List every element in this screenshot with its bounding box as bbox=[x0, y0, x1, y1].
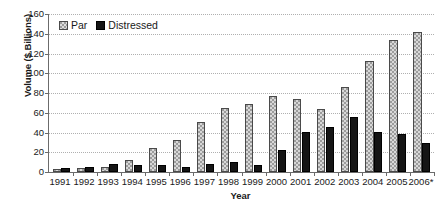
x-tick-label: 1993 bbox=[98, 176, 119, 187]
bar-distressed bbox=[109, 164, 117, 172]
bar-distressed bbox=[61, 168, 69, 172]
bar-group bbox=[242, 14, 266, 172]
bar-distressed bbox=[206, 164, 214, 172]
y-tick-label: 160 bbox=[28, 9, 44, 19]
bar-group bbox=[145, 14, 169, 172]
bar-par bbox=[365, 61, 373, 172]
bar-distressed bbox=[398, 134, 406, 173]
bar-group bbox=[217, 14, 241, 172]
x-tick-label: 1994 bbox=[122, 176, 143, 187]
bar-distressed bbox=[134, 165, 142, 172]
bar-distressed bbox=[374, 132, 382, 172]
y-tick-label: 20 bbox=[33, 148, 44, 158]
y-tick-label: 80 bbox=[33, 88, 44, 98]
y-tick-label: 140 bbox=[28, 29, 44, 39]
legend-item-distressed: Distressed bbox=[96, 20, 158, 31]
y-tick-label: 0 bbox=[39, 167, 44, 177]
y-tick-label: 60 bbox=[33, 108, 44, 118]
bar-group bbox=[362, 14, 386, 172]
bar-group bbox=[97, 14, 121, 172]
y-tick-label: 120 bbox=[28, 49, 44, 59]
legend-label-par: Par bbox=[71, 20, 87, 31]
x-tick-label: 1991 bbox=[49, 176, 70, 187]
bar-par bbox=[341, 87, 349, 172]
x-tick-label: 2000 bbox=[266, 176, 287, 187]
x-tick-label: 2004 bbox=[362, 176, 383, 187]
bar-distressed bbox=[326, 127, 334, 172]
bar-par bbox=[53, 169, 61, 172]
legend-item-par: Par bbox=[59, 20, 87, 31]
bar-group bbox=[49, 14, 73, 172]
bar-par bbox=[413, 32, 421, 172]
bar-group bbox=[338, 14, 362, 172]
bar-group bbox=[410, 14, 434, 172]
x-axis-title: Year bbox=[48, 190, 433, 201]
bar-group bbox=[314, 14, 338, 172]
y-axis-tick-labels: 020406080100120140160 bbox=[18, 14, 44, 172]
bar-par bbox=[389, 40, 397, 172]
bar-par bbox=[293, 99, 301, 172]
bar-par bbox=[317, 109, 325, 172]
x-tick-label: 2002 bbox=[314, 176, 335, 187]
bar-distressed bbox=[278, 150, 286, 172]
bar-chart: Volume ($ Billions) 02040608010012014016… bbox=[0, 0, 443, 221]
legend-label-distressed: Distressed bbox=[108, 20, 158, 31]
x-tick-label: 2001 bbox=[290, 176, 311, 187]
bar-group bbox=[121, 14, 145, 172]
bar-distressed bbox=[230, 162, 238, 172]
bar-par bbox=[101, 167, 109, 172]
x-tick-label: 1992 bbox=[74, 176, 95, 187]
bar-group bbox=[73, 14, 97, 172]
bar-distressed bbox=[350, 117, 358, 172]
bar-par bbox=[221, 108, 229, 172]
y-tick-mark bbox=[45, 172, 49, 173]
bar-par bbox=[245, 104, 253, 172]
plot-area bbox=[48, 14, 434, 173]
bar-distressed bbox=[254, 165, 262, 172]
par-swatch-icon bbox=[59, 21, 68, 30]
x-tick-label: 2003 bbox=[338, 176, 359, 187]
bar-par bbox=[173, 140, 181, 172]
x-tick-label: 1998 bbox=[218, 176, 239, 187]
x-tick-label: 2005 bbox=[386, 176, 407, 187]
bar-group bbox=[266, 14, 290, 172]
bar-par bbox=[269, 96, 277, 172]
x-axis-tick-labels: 1991199219931994199519961997199819992000… bbox=[48, 176, 433, 190]
bar-group bbox=[169, 14, 193, 172]
bar-group bbox=[290, 14, 314, 172]
x-tick-label: 1999 bbox=[242, 176, 263, 187]
bar-distressed bbox=[422, 143, 430, 172]
bar-group bbox=[193, 14, 217, 172]
bar-group bbox=[386, 14, 410, 172]
bar-distressed bbox=[158, 165, 166, 172]
x-tick-label: 2006* bbox=[409, 176, 434, 187]
bar-par bbox=[149, 148, 157, 172]
bar-distressed bbox=[302, 132, 310, 172]
y-tick-label: 100 bbox=[28, 69, 44, 79]
bar-distressed bbox=[85, 167, 93, 172]
x-tick-label: 1997 bbox=[194, 176, 215, 187]
x-tick-label: 1996 bbox=[170, 176, 191, 187]
x-tick-label: 1995 bbox=[146, 176, 167, 187]
x-tick-mark bbox=[434, 172, 435, 176]
bar-par bbox=[197, 122, 205, 172]
bar-distressed bbox=[182, 167, 190, 172]
bars-layer bbox=[49, 14, 434, 172]
distressed-swatch-icon bbox=[96, 21, 105, 30]
bar-par bbox=[125, 160, 133, 172]
chart-legend: Par Distressed bbox=[57, 19, 161, 32]
bar-par bbox=[77, 168, 85, 172]
y-tick-label: 40 bbox=[33, 128, 44, 138]
